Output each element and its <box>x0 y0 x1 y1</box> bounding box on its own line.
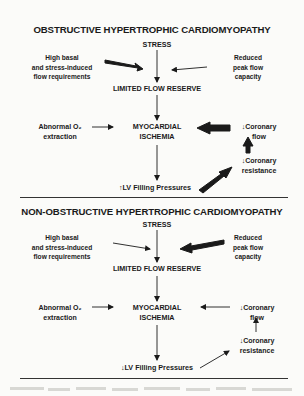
thick-arrow-right-input <box>180 240 224 253</box>
arrow-lv-to-resistance <box>200 351 229 368</box>
arrow-right-input <box>172 67 207 70</box>
thick-arrow-flow-to-ischemia <box>197 122 230 134</box>
arrow-layer <box>0 0 304 396</box>
thick-arrow-resistance-to-flow <box>243 137 253 153</box>
thick-arrow-left-input <box>105 60 143 71</box>
page-bleed-through <box>0 382 304 396</box>
arrow-left-input <box>113 243 150 249</box>
thick-arrow-lv-to-resistance <box>199 167 232 193</box>
